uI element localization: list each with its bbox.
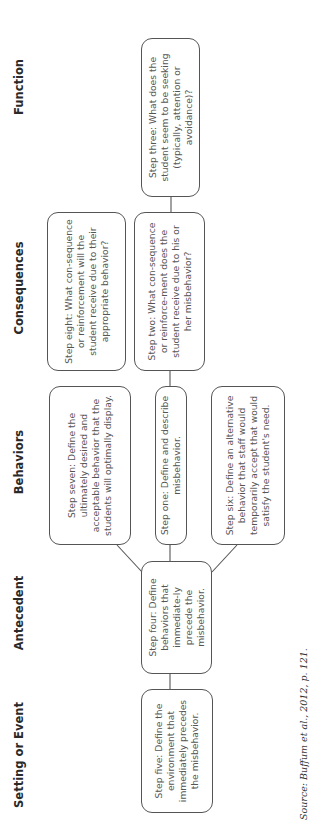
step-four-text: Step four: Define behaviors that immedia… [147,568,207,667]
step-one-text: Step one: Define and describe misbehavio… [159,393,183,538]
step-eight-text: Step eight: What con-sequence or reinfor… [63,219,111,364]
step-one-box: Step one: Define and describe misbehavio… [155,386,187,545]
step-two-text: Step two: What con-sequence or reinforce… [146,219,194,364]
step-three-text: Step three: What does the student seem t… [147,45,195,190]
step-five-text: Step five: Define the environment that i… [153,696,201,806]
step-four-box: Step four: Define behaviors that immedia… [141,561,212,674]
step-six-box: Step six: Define an alternative behavior… [211,386,285,545]
connector-four-six [212,545,237,572]
step-two-box: Step two: What con-sequence or reinforce… [134,212,205,371]
source-citation: Source: Buffum et al., 2012, p. 121. [298,648,309,820]
step-seven-text: Step seven: Define the ultimately desire… [66,393,114,538]
step-three-box: Step three: What does the student seem t… [141,38,200,197]
step-seven-box: Step seven: Define the ultimately desire… [49,386,131,545]
connector-four-seven [117,545,142,572]
step-eight-box: Step eight: What con-sequence or reinfor… [47,212,126,371]
behavior-analysis-diagram: Setting or Event Antecedent Behaviors Co… [0,0,312,824]
step-five-box: Step five: Define the environment that i… [141,689,213,813]
step-six-text: Step six: Define an alternative behavior… [224,393,272,538]
